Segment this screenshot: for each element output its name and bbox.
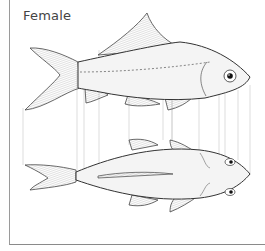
fish-side-view [25,13,250,110]
fish-top-view [25,139,250,212]
fish-illustration [0,0,265,251]
